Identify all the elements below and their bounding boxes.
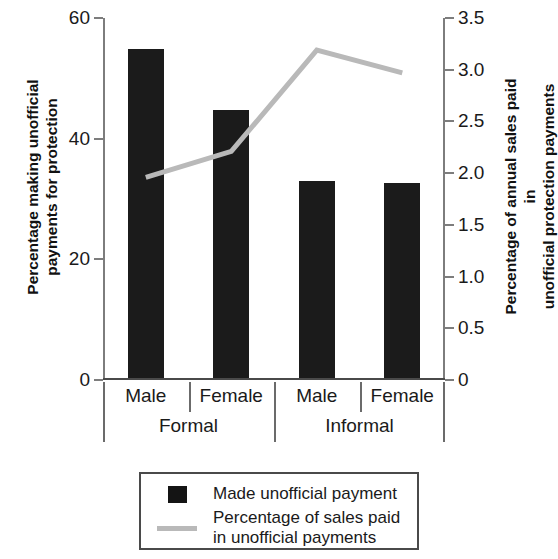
y-axis-left-tick [94, 258, 103, 260]
y-axis-left-tick-label: 40 [69, 129, 90, 148]
y-axis-right-tick-label: 1.0 [458, 267, 484, 286]
y-axis-right-tick [445, 120, 454, 122]
y-axis-right-tick-label: 0.5 [458, 318, 484, 337]
y-axis-right-tick [445, 379, 454, 381]
y-axis-right-tick [445, 172, 454, 174]
y-axis-left-title: Percentage making unofficial payments fo… [23, 62, 61, 312]
x-axis-group-separator [103, 382, 105, 442]
legend-item-line: Percentage of sales paid in unofficial p… [141, 508, 417, 548]
y-axis-right-tick [445, 276, 454, 278]
y-axis-right-tick [445, 17, 454, 19]
y-axis-right-title: Percentage of annual sales paid in unoff… [501, 72, 558, 322]
x-axis-group-label: Informal [274, 411, 445, 441]
x-axis-category-separator [360, 382, 362, 412]
y-axis-left-tick [94, 379, 103, 381]
x-axis-category-label: Male [274, 380, 360, 412]
chart-legend: Made unofficial payment Percentage of sa… [139, 472, 419, 550]
legend-item-bar-label: Made unofficial payment [213, 484, 397, 504]
x-axis-group-label: Formal [103, 411, 274, 441]
y-axis-right-tick [445, 327, 454, 329]
y-axis-left-tick [94, 138, 103, 140]
y-axis-left-tick-label: 20 [69, 249, 90, 268]
y-axis-right-tick-label: 3.0 [458, 60, 484, 79]
line-series [103, 18, 445, 380]
y-axis-right-tick-label: 1.5 [458, 215, 484, 234]
x-axis-group-separator [274, 382, 276, 442]
x-axis-categories: MaleFemaleMaleFemaleFormalInformal [103, 380, 445, 442]
x-axis-category-label: Female [360, 380, 446, 412]
y-axis-right-tick-label: 2.0 [458, 163, 484, 182]
legend-item-line-label: Percentage of sales paid in unofficial p… [213, 508, 400, 548]
legend-square-swatch-icon [141, 486, 213, 503]
x-axis-group-separator [443, 382, 445, 442]
y-axis-right-tick [445, 224, 454, 226]
legend-line-swatch-icon [141, 526, 213, 531]
y-axis-right-tick-label: 2.5 [458, 111, 484, 130]
y-axis-left-tick-label: 0 [79, 370, 90, 389]
legend-item-bar: Made unofficial payment [141, 480, 417, 508]
y-axis-left-tick-label: 60 [69, 8, 90, 27]
y-axis-right-tick-label: 0 [458, 370, 469, 389]
x-axis-category-label: Female [189, 380, 275, 412]
y-axis-left-tick [94, 17, 103, 19]
y-axis-right-tick-label: 3.5 [458, 8, 484, 27]
y-axis-right-tick [445, 69, 454, 71]
line-series-path [146, 50, 403, 177]
x-axis-category-label: Male [103, 380, 189, 412]
plot-area: 0204060 00.51.01.52.02.53.03.5 [103, 18, 445, 380]
x-axis-category-separator [189, 382, 191, 412]
